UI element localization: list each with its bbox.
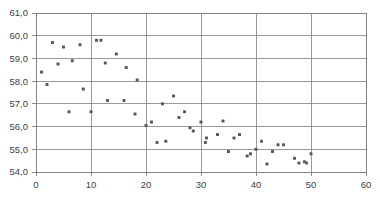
data-point [200, 121, 203, 124]
plot-area: 0102030405060 54,055,056,057,058,059,060… [0, 0, 380, 204]
data-point [310, 152, 313, 155]
x-tick-label: 20 [141, 179, 152, 190]
data-point [115, 52, 118, 55]
data-point [46, 83, 49, 86]
data-point [233, 136, 236, 139]
data-point [106, 99, 109, 102]
y-tick-label: 54,0 [10, 166, 29, 177]
y-tick-label: 56,0 [10, 121, 29, 132]
y-tick-label: 59,0 [10, 53, 29, 64]
y-axis-ticks [32, 13, 36, 172]
data-point [82, 88, 85, 91]
y-tick-label: 61,0 [10, 7, 29, 18]
y-tick-label: 58,0 [10, 76, 29, 87]
data-point [189, 126, 192, 129]
data-point [40, 71, 43, 74]
data-point [192, 130, 195, 133]
scatter-chart: 0102030405060 54,055,056,057,058,059,060… [0, 0, 380, 204]
data-point [293, 157, 296, 160]
data-point [305, 161, 308, 164]
data-point [297, 161, 300, 164]
x-axis-ticks [36, 172, 366, 176]
x-tick-label: 40 [251, 179, 262, 190]
data-point [123, 99, 126, 102]
data-point [79, 43, 82, 46]
data-point [246, 155, 249, 158]
data-point [204, 141, 207, 144]
data-point [282, 143, 285, 146]
data-point [164, 140, 167, 143]
data-point [134, 113, 137, 116]
data-point [68, 110, 71, 113]
x-tick-label: 30 [196, 179, 207, 190]
data-point [216, 133, 219, 136]
data-points [40, 39, 313, 166]
grid-lines [36, 13, 366, 172]
data-point [104, 61, 107, 64]
data-point [271, 150, 274, 153]
y-tick-label: 55,0 [10, 144, 29, 155]
y-axis-tick-labels: 54,055,056,057,058,059,060,061,0 [10, 7, 29, 177]
data-point [205, 136, 208, 139]
x-tick-label: 10 [86, 179, 97, 190]
data-point [238, 133, 241, 136]
x-tick-label: 0 [33, 179, 38, 190]
y-tick-label: 57,0 [10, 98, 29, 109]
data-point [90, 110, 93, 113]
data-point [222, 119, 225, 122]
data-point [277, 143, 280, 146]
x-tick-label: 60 [361, 179, 372, 190]
data-point [227, 150, 230, 153]
x-axis-tick-labels: 0102030405060 [33, 179, 371, 190]
data-point [150, 121, 153, 124]
data-point [266, 163, 269, 166]
data-point [178, 116, 181, 119]
data-point [183, 110, 186, 113]
data-point [62, 46, 65, 49]
data-point [172, 94, 175, 97]
data-point [260, 140, 263, 143]
data-point [255, 148, 258, 151]
data-point [249, 152, 252, 155]
data-point [136, 79, 139, 82]
data-point [51, 41, 54, 44]
data-point [95, 39, 98, 42]
data-point [161, 102, 164, 105]
data-point [71, 59, 74, 62]
data-point [57, 63, 60, 66]
data-point [145, 124, 148, 127]
x-tick-label: 50 [306, 179, 317, 190]
data-point [156, 141, 159, 144]
y-tick-label: 60,0 [10, 30, 29, 41]
data-point [99, 39, 102, 42]
data-point [125, 66, 128, 69]
